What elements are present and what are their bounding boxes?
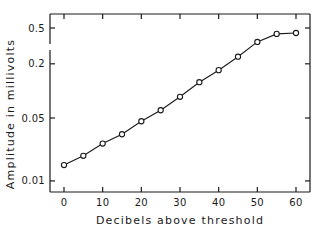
x-tick-label: 0 [61,197,68,208]
data-point-marker [255,39,260,44]
data-point-marker [100,141,105,146]
x-tick-label: 60 [289,197,302,208]
amplitude-vs-decibels-chart: 0102030405060 0.010.050.20.5 Decibels ab… [0,0,319,230]
data-point-marker [177,94,182,99]
data-point-marker [274,31,279,36]
plot-frame [50,14,310,192]
data-point-marker [119,132,124,137]
x-tick-label: 40 [212,197,225,208]
data-point-marker [81,153,86,158]
data-point-marker [61,162,66,167]
x-axis-ticks: 0102030405060 [61,14,303,208]
y-tick-label: 0.2 [28,58,45,69]
data-point-marker [216,68,221,73]
y-tick-label: 0.05 [22,113,45,124]
x-tick-label: 30 [173,197,186,208]
data-point-marker [197,80,202,85]
data-point-marker [235,54,240,59]
data-point-marker [293,30,298,35]
data-series [61,30,298,167]
y-axis-label: Amplitude in millivolts [4,39,17,189]
x-tick-label: 10 [96,197,109,208]
y-tick-label: 0.01 [22,175,45,186]
x-tick-label: 50 [251,197,264,208]
x-axis-label: Decibels above threshold [96,214,264,227]
x-tick-label: 20 [135,197,148,208]
data-point-marker [139,119,144,124]
y-tick-label: 0.5 [28,23,45,34]
data-point-marker [158,108,163,113]
y-axis-ticks: 0.010.050.20.5 [22,23,310,187]
